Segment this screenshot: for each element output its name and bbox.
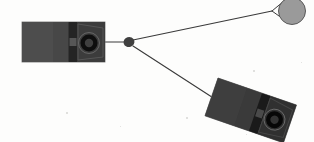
panel-grille-gap — [70, 38, 77, 46]
edge-hub-to-right-device[interactable] — [133, 46, 218, 101]
devices-layer — [22, 22, 296, 142]
diagram-scene — [0, 0, 314, 142]
nodes-layer — [122, 0, 305, 48]
left-device[interactable] — [22, 22, 105, 62]
panel-cabinet-left — [22, 22, 53, 62]
driver-dust-cap — [85, 39, 93, 47]
diagram-canvas — [0, 0, 314, 142]
edges-layer — [104, 1, 286, 101]
gray-circle-node[interactable] — [279, 0, 306, 25]
edge-hub-to-circle[interactable] — [133, 11, 272, 40]
panel-cabinet-mid — [53, 22, 69, 62]
right-device[interactable] — [205, 78, 297, 142]
